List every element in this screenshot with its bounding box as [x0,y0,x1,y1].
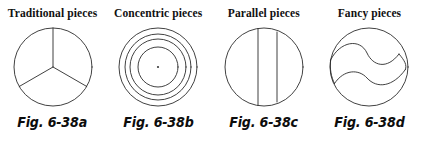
panel-title-concentric: Concentric pieces [114,6,202,20]
panel-title-fancy: Fancy pieces [338,6,401,20]
panel-title-parallel: Parallel pieces [228,6,300,20]
figure-panel-fancy: Fancy pieces Fig. 6-38d [317,0,422,148]
diagram-fancy-pieces [317,24,422,110]
sector-radius-lower-right [53,67,87,87]
panel-caption-a: Fig. 6-38a [18,114,88,130]
panel-title-traditional: Traditional pieces [8,6,97,20]
s-curve-upper [331,43,399,64]
s-curve-lower [335,70,406,85]
circle-s-curves-svg [327,25,411,109]
sector-radius-lower-left [19,67,53,87]
figure-panel-parallel: Parallel pieces Fig. 6-38c [211,0,316,148]
center-dot [157,66,159,68]
diagram-parallel-pieces [211,24,316,110]
panel-caption-d: Fig. 6-38d [334,114,404,130]
figure-panel-concentric: Concentric pieces Fig. 6-38b [106,0,211,148]
figure-board: Traditional pieces Fig. 6-38a Concentric… [0,0,422,148]
panel-caption-c: Fig. 6-38c [229,114,298,130]
circle-concentric-rings-svg [116,25,200,109]
panel-caption-b: Fig. 6-38b [123,114,193,130]
circle-three-sectors-svg [11,25,95,109]
s-curve-left-join [331,60,335,84]
outer-circle [225,28,303,106]
figure-panel-traditional: Traditional pieces Fig. 6-38a [0,0,105,148]
s-curve-right-join [399,54,406,70]
outer-circle [330,28,408,106]
diagram-traditional-pieces [0,24,105,110]
circle-parallel-chords-svg [222,25,306,109]
diagram-concentric-pieces [106,24,211,110]
